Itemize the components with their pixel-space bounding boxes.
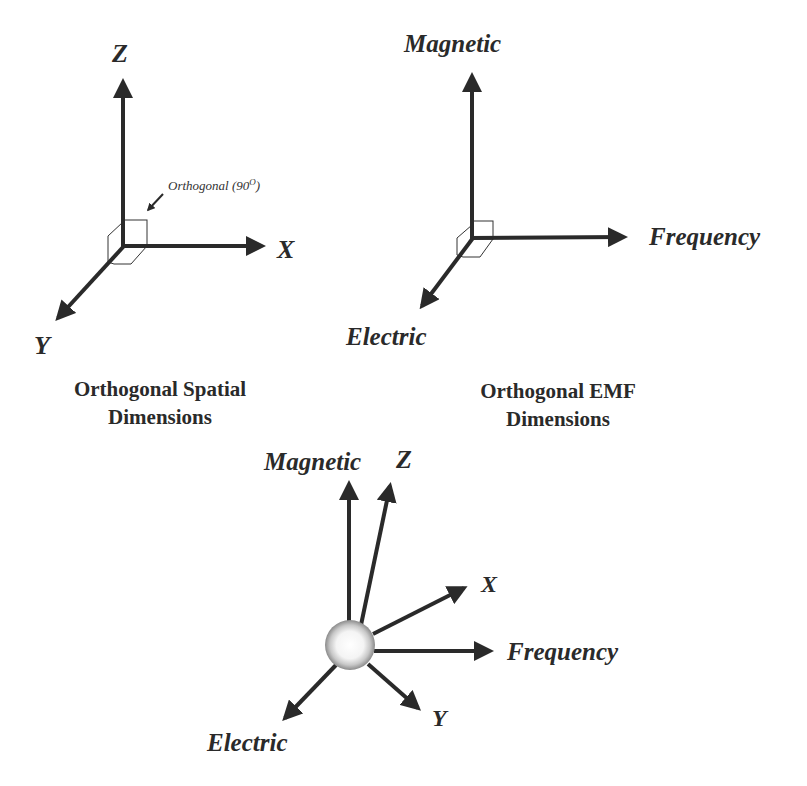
annotation-pointer-arrow [148, 194, 163, 210]
electric-axis-label: Electric [206, 729, 288, 756]
magnetic-axis-label: Magnetic [263, 448, 361, 475]
z-axis-label: Z [395, 445, 412, 474]
y-axis-label: Y [34, 331, 52, 360]
electric-axis-arrow [422, 238, 473, 306]
x-axis-label: X [276, 235, 295, 264]
electric-axis-arrow [285, 665, 336, 718]
magnetic-axis-label: Magnetic [403, 30, 501, 57]
y-axis-arrow [368, 664, 418, 708]
origin-sphere-icon [325, 620, 375, 670]
spatial-axes-diagram: Z X Y Orthogonal (90O) Orthogonal Spatia… [34, 39, 295, 429]
z-axis-arrow [361, 486, 390, 625]
frequency-axis-arrow [470, 237, 624, 238]
x-axis-arrow [373, 588, 464, 634]
frequency-axis-label: Frequency [648, 223, 761, 250]
z-axis-label: Z [111, 39, 128, 68]
orthogonal-annotation: Orthogonal (90O) [168, 177, 260, 193]
spatial-caption-line1: Orthogonal Spatial [74, 377, 246, 401]
emf-caption-line1: Orthogonal EMF [480, 379, 636, 403]
y-axis-label: Y [432, 705, 449, 731]
x-axis-label: X [480, 571, 498, 597]
combined-axes-diagram: Magnetic Z X Frequency Y Electric [206, 445, 619, 756]
y-axis-arrow [58, 246, 124, 318]
frequency-axis-label: Frequency [506, 638, 619, 665]
spatial-caption-line2: Dimensions [108, 405, 212, 429]
emf-caption-line2: Dimensions [506, 407, 610, 431]
electric-axis-label: Electric [345, 323, 427, 350]
diagram-canvas: Z X Y Orthogonal (90O) Orthogonal Spatia… [0, 0, 807, 786]
emf-axes-diagram: Magnetic Frequency Electric Orthogonal E… [345, 30, 761, 431]
